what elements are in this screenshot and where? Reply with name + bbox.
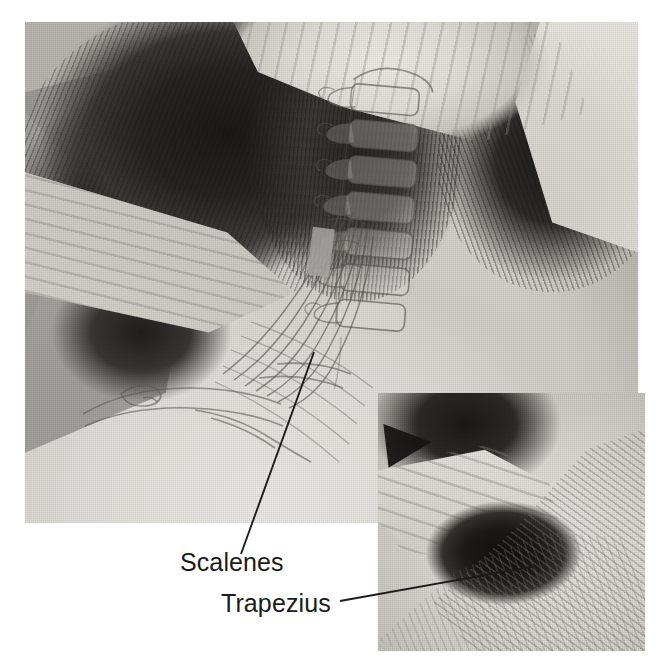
- anatomy-figure: Scalenes Trapezius: [0, 0, 661, 664]
- label-scalenes: Scalenes: [180, 548, 284, 577]
- inset-photograph: [378, 393, 645, 651]
- label-trapezius: Trapezius: [221, 589, 331, 618]
- inset-halftone-grain: [378, 393, 645, 651]
